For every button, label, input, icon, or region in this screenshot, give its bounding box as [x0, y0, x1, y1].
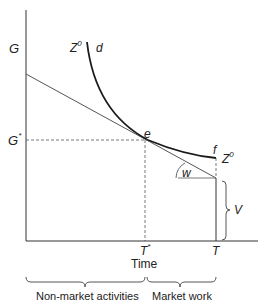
label-z0-right-sup: 0: [229, 150, 233, 159]
label-f: f: [213, 144, 216, 156]
x-axis-title: Time: [131, 258, 157, 270]
indifference-curve-z0: [87, 42, 216, 158]
label-t: T: [212, 245, 219, 257]
label-e: e: [144, 128, 151, 140]
label-g: G: [9, 42, 19, 55]
label-z0-left: Z0: [70, 42, 82, 54]
label-d: d: [96, 42, 103, 54]
label-t-star: T*: [140, 245, 150, 257]
label-g-star-sup: *: [18, 131, 21, 140]
budget-line: [26, 74, 216, 178]
market-work-brace: [147, 277, 216, 287]
label-market-work: Market work: [152, 291, 212, 302]
label-z0-right: Z0: [222, 153, 234, 165]
label-g-star: G*: [8, 134, 21, 147]
label-v: V: [234, 204, 242, 216]
v-brace: [222, 181, 230, 240]
label-w: w: [182, 167, 191, 179]
non-market-brace: [26, 277, 145, 287]
label-g-star-text: G: [8, 133, 18, 148]
label-z0-left-sup: 0: [77, 39, 81, 48]
label-non-market-activities: Non-market activities: [36, 291, 139, 302]
